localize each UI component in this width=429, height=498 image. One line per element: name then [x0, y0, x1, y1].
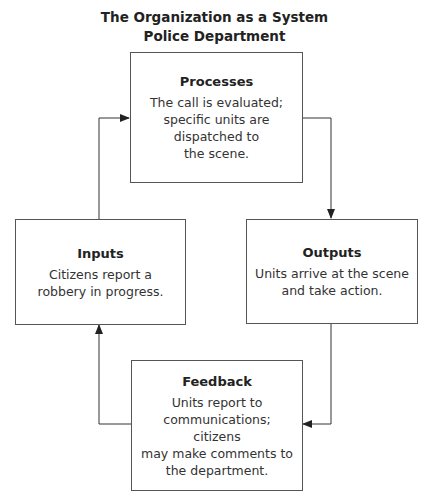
feedback-line: communications; citizens: [140, 411, 294, 445]
processes-line: specific units are: [150, 111, 283, 128]
feedback-line: Units report to: [140, 394, 294, 411]
processes-line: the scene.: [150, 145, 283, 162]
processes-title: Processes: [180, 73, 253, 91]
inputs-line: robbery in progress.: [38, 283, 164, 300]
feedback-title: Feedback: [182, 373, 252, 391]
processes-line: The call is evaluated;: [150, 94, 283, 111]
arrow-feedback-to-inputs: [99, 325, 131, 424]
processes-line: dispatched to: [150, 128, 283, 145]
processes-text: The call is evaluated; specific units ar…: [142, 94, 291, 162]
feedback-line: the department.: [140, 462, 294, 479]
outputs-text: Units arrive at the scene and take actio…: [247, 265, 417, 299]
feedback-box: Feedback Units report to communications;…: [131, 360, 303, 491]
arrow-processes-to-outputs: [302, 118, 331, 218]
inputs-line: Citizens report a: [38, 266, 164, 283]
processes-box: Processes The call is evaluated; specifi…: [130, 52, 303, 183]
feedback-line: may make comments to: [140, 445, 294, 462]
feedback-text: Units report to communications; citizens…: [132, 394, 302, 479]
outputs-title: Outputs: [302, 244, 361, 262]
arrow-outputs-to-feedback: [303, 323, 331, 424]
outputs-line: Units arrive at the scene: [255, 265, 409, 282]
outputs-line: and take action.: [255, 282, 409, 299]
inputs-box: Inputs Citizens report a robbery in prog…: [15, 219, 186, 325]
inputs-text: Citizens report a robbery in progress.: [30, 266, 172, 300]
inputs-title: Inputs: [77, 245, 124, 263]
arrow-inputs-to-processes: [99, 118, 129, 219]
outputs-box: Outputs Units arrive at the scene and ta…: [246, 219, 418, 324]
